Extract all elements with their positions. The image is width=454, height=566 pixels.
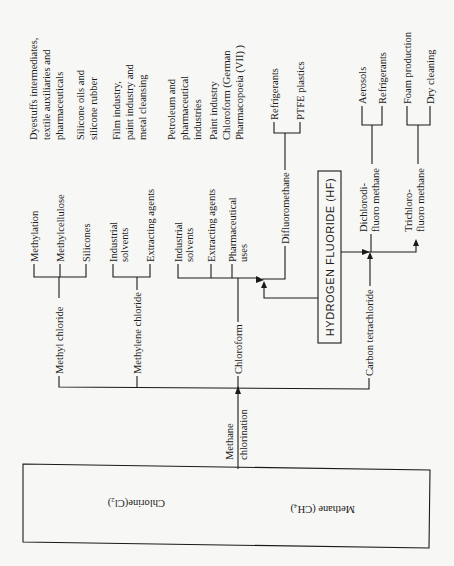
app-paint-line3: Pharmacopoeia (VII) ) xyxy=(234,44,246,140)
app-dyestuffs-line3: pharmaceuticals xyxy=(54,72,65,140)
app-dyestuffs-line1: Dyestuffs intermediates, xyxy=(28,38,39,140)
arrow-right-icon xyxy=(362,249,370,255)
use-refrigerants-1: Refrigerants xyxy=(269,68,280,120)
use-dry-cleaning: Dry cleaning xyxy=(425,49,436,104)
use-pharmaceutical-line1: Pharmaceutical xyxy=(227,197,238,262)
use-silicones: Silicones xyxy=(81,224,92,263)
use-industrial-solvents-1b: solvents xyxy=(119,228,130,262)
app-paint-line1: Paint industry xyxy=(208,81,219,140)
carbon-tetrachloride-branch: Carbon tetrachloride xyxy=(364,252,375,376)
difluoromethane-branch: Difluoromethane Refrigerants PTFE plasti… xyxy=(262,61,306,279)
app-film-line3: metal cleansing xyxy=(137,74,148,140)
hf-box: HYDROGEN FLUORIDE (HF) xyxy=(318,171,341,343)
app-petroleum-line3: industries xyxy=(192,99,203,140)
use-ptfe-plastics: PTFE plastics xyxy=(295,61,306,120)
hf-label: HYDROGEN FLUORIDE (HF) xyxy=(324,178,336,336)
arrow-up-icon xyxy=(413,239,419,246)
use-methylcellulose: Methylcellulose xyxy=(55,194,66,262)
app-paint-line2: Chloroform (German xyxy=(221,50,233,140)
app-dyestuffs-line2: textile auxiliaries and xyxy=(41,49,52,140)
use-extracting-agents-1: Extracting agents xyxy=(145,189,156,262)
use-refrigerants-2: Refrigerants xyxy=(377,52,388,104)
app-film-line1: Film industry, xyxy=(111,81,122,140)
arrow-up-icon xyxy=(367,252,373,259)
hf-right-line xyxy=(341,245,416,252)
methane-chlorination-stem: Methane chlorination xyxy=(224,386,249,469)
trichloro-line1: Trichloro- xyxy=(403,189,414,232)
methyl-chloride-label: Methyl chloride xyxy=(54,306,65,374)
use-foam-production: Foam production xyxy=(402,31,413,104)
methylene-chloride-branch: Methylene chloride Industrial solvents E… xyxy=(108,63,203,374)
chlorine-label: Chlorine(Cl₂) xyxy=(107,497,165,509)
use-industrial-solvents-1a: Industrial xyxy=(108,222,119,262)
chloroform-label: Chloroform xyxy=(233,324,244,374)
app-petroleum-line1: Petroleum and xyxy=(166,78,177,140)
carbon-tetrachloride-label: Carbon tetrachloride xyxy=(364,289,375,376)
chlorinated-methanes-flow-diagram: Chlorine(Cl₂) Methane (CH₄) Methane chlo… xyxy=(0,0,454,566)
hf-to-difluoro-line xyxy=(264,287,318,298)
methane-label: Methane (CH₄) xyxy=(290,503,355,515)
source-box: Chlorine(Cl₂) Methane (CH₄) xyxy=(23,464,430,548)
use-industrial-solvents-2b: solvents xyxy=(184,228,195,262)
dichloro-line2: fluoro methane xyxy=(370,168,381,232)
app-silicone-line2: silicone rubber xyxy=(88,77,99,140)
process-label-line2: chlorination xyxy=(238,409,249,460)
use-aerosols: Aerosols xyxy=(357,67,368,104)
trichloro-line2: fluoro methane xyxy=(415,168,426,232)
use-methylation: Methylation xyxy=(29,210,40,262)
methylene-chloride-label: Methylene chloride xyxy=(132,292,143,374)
app-silicone-line1: Silicone oils and xyxy=(75,69,86,140)
main-trunk xyxy=(59,376,369,389)
use-industrial-solvents-2a: Industrial xyxy=(173,222,184,262)
arrow-up-icon xyxy=(261,281,267,288)
use-extracting-agents-2: Extracting agents xyxy=(206,189,217,262)
methyl-chloride-branch: Methyl chloride Methylation Methylcellul… xyxy=(28,38,99,374)
dichlorodifluoromethane-branch: Dichlorodi- fluoro methane Aerosols Refr… xyxy=(357,52,388,252)
difluoromethane-label: Difluoromethane xyxy=(280,172,291,244)
source-box-outline xyxy=(23,464,430,548)
process-label-line1: Methane xyxy=(224,423,235,460)
dichloro-line1: Dichlorodi- xyxy=(358,183,369,232)
app-petroleum-line2: pharmaceutical xyxy=(179,76,190,140)
app-film-line2: paint industry and xyxy=(124,63,135,140)
trichlorofluoromethane-branch: Trichloro- fluoro methane Foam productio… xyxy=(402,31,436,232)
use-pharmaceutical-line2: uses xyxy=(238,244,249,262)
